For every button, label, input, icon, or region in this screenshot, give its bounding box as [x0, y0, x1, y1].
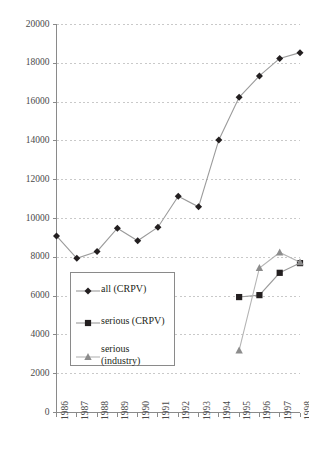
y-axis-tick-label: 18000 — [26, 58, 50, 68]
x-axis-tick-label: 1989 — [121, 401, 131, 420]
legend-marker — [85, 320, 91, 326]
y-axis-tick-label: 20000 — [26, 20, 50, 30]
series-serious-crpv- — [236, 260, 303, 300]
y-axis-tick-label: 0 — [45, 408, 50, 418]
series-line-0 — [57, 53, 301, 259]
legend-label: serious(industry) — [101, 343, 140, 367]
data-point-0-6 — [175, 193, 182, 200]
data-point-0-8 — [215, 136, 222, 143]
data-point-2-0 — [235, 346, 242, 353]
data-point-1-0 — [236, 294, 242, 300]
legend-label: all (CRPV) — [101, 283, 146, 295]
x-axis-tick-label: 1995 — [243, 401, 253, 420]
x-axis-tick-label: 1988 — [101, 401, 111, 420]
y-axis-tick-label: 10000 — [26, 214, 50, 224]
y-axis-tick-label: 12000 — [26, 175, 50, 185]
x-axis-tick-label: 1996 — [263, 401, 273, 420]
y-axis-tick-label: 14000 — [26, 136, 50, 146]
data-point-2-1 — [256, 264, 263, 271]
legend-marker-triangle-icon — [75, 349, 101, 361]
data-point-0-7 — [195, 203, 202, 210]
x-axis-tick-label: 1991 — [162, 401, 172, 420]
x-axis-tick-label: 1998 — [304, 401, 309, 420]
x-axis-tick-label: 1992 — [182, 401, 192, 420]
legend-item-serious-crpv-: serious (CRPV) — [75, 315, 165, 327]
legend-marker-square-icon — [75, 315, 101, 327]
legend-label-line-1: all (CRPV) — [101, 283, 146, 295]
legend-marker — [85, 288, 92, 295]
y-axis-tick-label: 16000 — [26, 97, 50, 107]
legend-label: serious (CRPV) — [101, 315, 165, 327]
data-point-1-1 — [256, 292, 262, 298]
data-point-0-5 — [154, 224, 161, 231]
x-axis-tick-label: 1987 — [81, 401, 91, 420]
data-point-2-2 — [276, 248, 283, 255]
y-axis-tick-label: 4000 — [31, 330, 50, 340]
x-axis-tick-label: 1986 — [61, 401, 71, 420]
x-axis-tick-label: 1993 — [203, 401, 213, 420]
chart-plot-area — [0, 0, 309, 464]
data-point-1-2 — [277, 270, 283, 276]
legend-label-line-2: (industry) — [101, 355, 140, 367]
x-axis-tick-label: 1994 — [223, 401, 233, 420]
chart-container: 0200040006000800010000120001400016000180… — [0, 0, 309, 464]
data-point-0-12 — [297, 49, 304, 56]
y-axis-tick-label: 8000 — [31, 252, 50, 262]
series-line-1 — [239, 263, 300, 297]
legend-item-all-crpv-: all (CRPV) — [75, 283, 146, 295]
legend-marker-diamond-icon — [75, 283, 101, 295]
legend-label-line-1: serious (CRPV) — [101, 315, 165, 327]
x-axis-tick-label: 1997 — [284, 401, 294, 420]
series-serious-industry- — [235, 248, 303, 353]
data-point-0-4 — [134, 237, 141, 244]
legend-label-line-1: serious — [101, 343, 140, 355]
series-all-crpv- — [53, 49, 304, 262]
x-axis-tick-label: 1990 — [142, 401, 152, 420]
y-axis-tick-label: 2000 — [31, 369, 50, 379]
y-axis-tick-label: 6000 — [31, 291, 50, 301]
legend-item-serious: serious(industry) — [75, 343, 140, 367]
